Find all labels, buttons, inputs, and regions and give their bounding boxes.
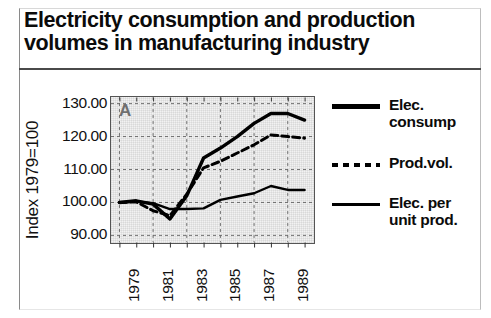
legend-label-line: Prod.vol. [389,154,453,171]
legend-label-line: Elec. per [389,194,457,211]
x-tick-label: 1985 [226,269,244,302]
legend-line-sample [332,163,380,167]
legend-label-line: consump [389,113,456,130]
legend-line-sample [332,104,380,109]
legend-swatch [330,154,382,174]
x-tick-label: 1989 [294,269,312,302]
x-tick-label: 1979 [125,269,143,302]
y-axis-tick-labels: 130.00120.00110.00100.0090.00 [35,72,107,318]
x-axis-tick-labels: 197919811983198519871989 [110,244,315,318]
y-tick-label: 120.00 [37,127,107,145]
legend-item: Elec. perunit prod. [330,194,480,229]
y-tick-label: 100.00 [37,192,107,210]
legend-label: Elec.consump [389,96,456,131]
figure-title: Electricity consumption and production v… [24,9,474,55]
y-tick-label: 110.00 [37,160,107,178]
legend-swatch [330,194,382,214]
legend-item: Prod.vol. [330,154,480,174]
x-tick-label: 1987 [260,269,278,302]
legend-label-line: Elec. [389,96,456,113]
legend-label: Elec. perunit prod. [389,194,457,229]
y-tick-label: 90.00 [37,225,107,243]
legend-item: Elec.consump [330,96,480,131]
axis-tick-marks [110,96,315,248]
title-line-1: Electricity consumption and production [24,8,415,32]
x-tick-label: 1981 [159,269,177,302]
figure-container: Electricity consumption and production v… [0,0,491,318]
legend-label: Prod.vol. [389,154,453,171]
x-tick-label: 1983 [193,269,211,302]
title-line-2: volumes in manufacturing industry [24,32,474,55]
title-divider [19,68,481,70]
legend-line-sample [332,203,380,206]
legend-label-line: unit prod. [389,211,457,228]
y-tick-label: 130.00 [37,94,107,112]
legend-swatch [330,96,382,116]
